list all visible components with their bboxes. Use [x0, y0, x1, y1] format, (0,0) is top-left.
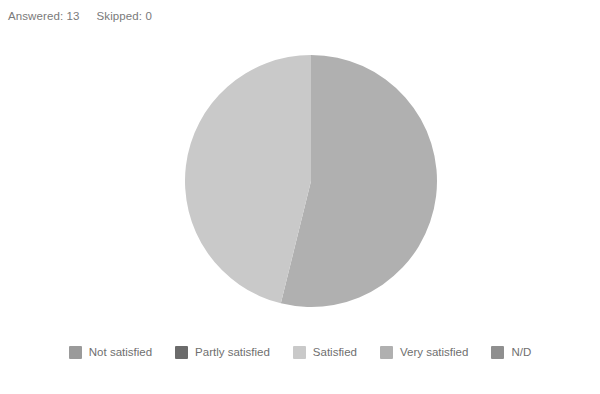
- answered-count: Answered: 13: [8, 10, 80, 22]
- legend-swatch-icon: [69, 346, 82, 359]
- legend-item[interactable]: Very satisfied: [380, 346, 468, 359]
- legend-item[interactable]: N/D: [491, 346, 531, 359]
- legend-item[interactable]: Not satisfied: [69, 346, 152, 359]
- legend-swatch-icon: [491, 346, 504, 359]
- pie-chart-area: [0, 36, 600, 324]
- legend-swatch-icon: [380, 346, 393, 359]
- response-stats: Answered: 13Skipped: 0: [8, 10, 152, 22]
- legend-item-label: Satisfied: [313, 346, 357, 359]
- legend-item[interactable]: Satisfied: [293, 346, 357, 359]
- legend-item-label: N/D: [511, 346, 531, 359]
- legend-item-label: Very satisfied: [400, 346, 468, 359]
- legend-item-label: Partly satisfied: [195, 346, 270, 359]
- legend-swatch-icon: [175, 346, 188, 359]
- chart-legend: Not satisfiedPartly satisfiedSatisfiedVe…: [0, 339, 600, 365]
- legend-item-label: Not satisfied: [89, 346, 152, 359]
- legend-swatch-icon: [293, 346, 306, 359]
- legend-item[interactable]: Partly satisfied: [175, 346, 270, 359]
- pie-chart: [185, 55, 437, 307]
- skipped-count: Skipped: 0: [97, 10, 152, 22]
- survey-chart-widget: Answered: 13Skipped: 0 Not satisfiedPart…: [0, 0, 600, 394]
